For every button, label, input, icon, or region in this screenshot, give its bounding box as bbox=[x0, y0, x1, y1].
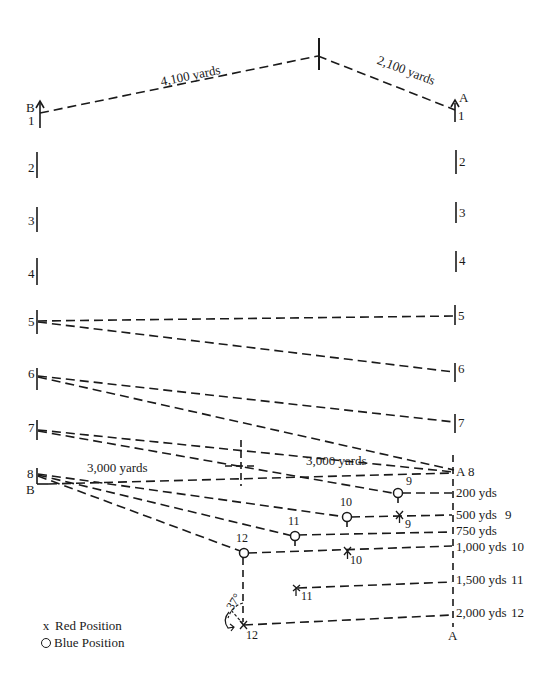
angle-label: 37° bbox=[223, 591, 244, 613]
initial-legs: 4,100 yards 2,100 yards bbox=[40, 38, 455, 113]
b-position-1: 1 bbox=[28, 113, 35, 128]
circle-icon bbox=[41, 638, 51, 648]
range-1500-index: 11 bbox=[511, 572, 524, 587]
ship-b-column: B 1 2 3 4 5 6 7 8 B bbox=[26, 100, 48, 497]
b-position-8: 8 bbox=[27, 466, 34, 481]
svg-text:9: 9 bbox=[406, 474, 412, 488]
a-position-6: 6 bbox=[458, 361, 465, 376]
red-positions: 9 10 11 12 bbox=[240, 511, 411, 642]
ship-a-label: A bbox=[459, 90, 469, 105]
x-mark-icon: x bbox=[40, 617, 52, 634]
range-markers: 200 yds 500 yds 9 750 yds 1,000 yds 10 1… bbox=[456, 485, 524, 620]
svg-text:11: 11 bbox=[301, 589, 313, 603]
range-1000-index: 10 bbox=[511, 539, 524, 554]
range-500: 500 yds bbox=[456, 507, 497, 522]
legend-blue: Blue Position bbox=[40, 634, 124, 651]
b-position-6: 6 bbox=[28, 366, 35, 381]
range-2000: 2,000 yds bbox=[456, 605, 507, 620]
blue-position-10: 10 bbox=[340, 495, 352, 527]
b-position-5: 5 bbox=[28, 314, 35, 329]
legend-red: x Red Position bbox=[40, 617, 124, 634]
range-200: 200 yds bbox=[456, 485, 497, 500]
b-position-2: 2 bbox=[28, 160, 35, 175]
a8-label: A 8 bbox=[456, 464, 474, 479]
range-2000-index: 12 bbox=[511, 605, 524, 620]
svg-text:12: 12 bbox=[246, 628, 258, 642]
blue-position-11: 11 bbox=[288, 514, 300, 546]
a-position-3: 3 bbox=[459, 205, 466, 220]
ship-b-label-bottom: B bbox=[26, 482, 35, 497]
leg-b-distance: 4,100 yards bbox=[159, 62, 221, 89]
a-position-4: 4 bbox=[459, 253, 466, 268]
a-position-5: 5 bbox=[458, 308, 465, 323]
range-label-left: 3,000 yards bbox=[87, 460, 148, 475]
legend-red-label: Red Position bbox=[55, 617, 122, 634]
b-position-4: 4 bbox=[28, 266, 35, 281]
legend-blue-label: Blue Position bbox=[54, 634, 124, 651]
ship-a-label-bottom: A bbox=[448, 628, 458, 643]
blue-position-12: 12 bbox=[236, 531, 249, 558]
turn-angle: 37° bbox=[223, 591, 244, 631]
range-label-right: 3,000 yards bbox=[306, 453, 367, 468]
range-500-index: 9 bbox=[505, 507, 512, 522]
ship-a-column: A 1 2 3 4 5 6 7 A 8 A bbox=[448, 90, 474, 643]
range-1500: 1,500 yds bbox=[456, 572, 507, 587]
svg-text:12: 12 bbox=[236, 531, 248, 545]
sight-lines bbox=[38, 316, 454, 552]
svg-text:9: 9 bbox=[405, 517, 411, 531]
b-position-7: 7 bbox=[28, 420, 35, 435]
blue-position-9: 9 bbox=[394, 474, 413, 503]
a-position-2: 2 bbox=[459, 154, 466, 169]
b-position-3: 3 bbox=[28, 213, 35, 228]
red-position-9: 9 bbox=[396, 511, 411, 531]
svg-text:11: 11 bbox=[288, 514, 300, 528]
a-position-7: 7 bbox=[458, 415, 465, 430]
a-position-1: 1 bbox=[458, 108, 465, 123]
legend: x Red Position Blue Position bbox=[40, 617, 124, 651]
svg-text:10: 10 bbox=[340, 495, 352, 509]
tactical-diagram: 4,100 yards 2,100 yards B 1 2 3 4 5 6 7 … bbox=[0, 0, 544, 681]
svg-text:10: 10 bbox=[350, 553, 362, 567]
range-1000: 1,000 yds bbox=[456, 539, 507, 554]
range-750: 750 yds bbox=[456, 523, 497, 538]
